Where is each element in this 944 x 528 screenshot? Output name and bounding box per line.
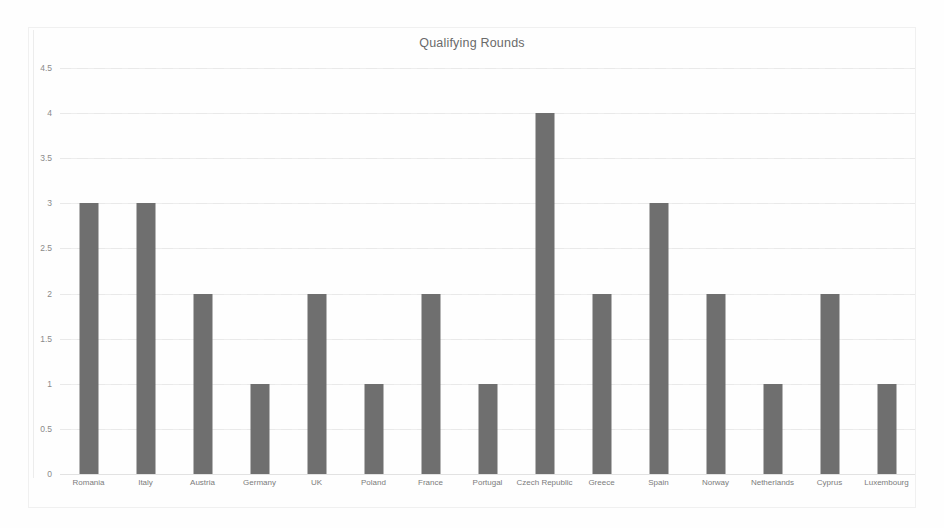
bar-slot — [174, 68, 231, 474]
bar-slot — [117, 68, 174, 474]
bar[interactable] — [193, 294, 212, 474]
bar[interactable] — [307, 294, 326, 474]
bar-slot — [516, 68, 573, 474]
y-tick-label: 1 — [4, 379, 52, 389]
bar[interactable] — [478, 384, 497, 474]
bar[interactable] — [763, 384, 782, 474]
bar[interactable] — [421, 294, 440, 474]
bar[interactable] — [877, 384, 896, 474]
bar-slot — [288, 68, 345, 474]
y-tick-label: 0 — [4, 469, 52, 479]
y-tick-label: 2.5 — [4, 243, 52, 253]
y-tick-label: 2 — [4, 289, 52, 299]
bar[interactable] — [592, 294, 611, 474]
y-tick-label: 1.5 — [4, 334, 52, 344]
y-tick-label: 3.5 — [4, 153, 52, 163]
bar-slot — [630, 68, 687, 474]
bar-slot — [687, 68, 744, 474]
gridline — [60, 474, 915, 475]
bar-slot — [801, 68, 858, 474]
bar-chart: Qualifying Rounds 00.511.522.533.544.5 R… — [0, 0, 944, 528]
bar[interactable] — [136, 203, 155, 474]
bar[interactable] — [535, 113, 554, 474]
bar-slot — [60, 68, 117, 474]
y-tick-label: 4 — [4, 108, 52, 118]
bar-slot — [345, 68, 402, 474]
bar-slot — [402, 68, 459, 474]
plot-area — [60, 68, 915, 474]
bar-slot — [744, 68, 801, 474]
bar-slot — [573, 68, 630, 474]
bar[interactable] — [820, 294, 839, 474]
y-tick-label: 3 — [4, 198, 52, 208]
chart-title: Qualifying Rounds — [0, 36, 944, 50]
bar[interactable] — [649, 203, 668, 474]
y-axis-tick-labels: 00.511.522.533.544.5 — [0, 68, 52, 474]
y-tick-label: 4.5 — [4, 63, 52, 73]
bar[interactable] — [250, 384, 269, 474]
bar-slot — [459, 68, 516, 474]
bar[interactable] — [364, 384, 383, 474]
bar[interactable] — [706, 294, 725, 474]
bar-slot — [231, 68, 288, 474]
x-tick-label: Luxembourg — [849, 478, 925, 487]
bar-slot — [858, 68, 915, 474]
bar[interactable] — [79, 203, 98, 474]
x-axis-tick-labels: RomaniaItalyAustriaGermanyUKPolandFrance… — [60, 478, 915, 500]
bar-series — [60, 68, 915, 474]
y-tick-label: 0.5 — [4, 424, 52, 434]
